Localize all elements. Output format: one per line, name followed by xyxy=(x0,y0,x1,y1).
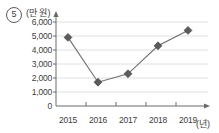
data-point-markers xyxy=(64,26,192,86)
x-tick-label: 2016 xyxy=(81,115,115,125)
x-tick-label: 2018 xyxy=(141,115,175,125)
line-chart-plot xyxy=(0,0,219,133)
x-tick-label: 2019 xyxy=(171,115,205,125)
data-point-2015 xyxy=(64,33,72,41)
gridlines xyxy=(56,22,208,92)
x-tick-label: 2015 xyxy=(51,115,85,125)
chart-figure: 5 (만 원) (년) 0 1,000 2,000 3,000 4,000 5,… xyxy=(0,0,219,133)
x-axis xyxy=(56,102,210,109)
data-point-2016 xyxy=(94,78,102,86)
data-point-2019 xyxy=(184,26,192,34)
x-tick-label: 2017 xyxy=(111,115,145,125)
